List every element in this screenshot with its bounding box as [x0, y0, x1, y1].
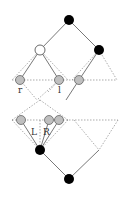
bottom-node	[64, 174, 74, 184]
label-r: r	[18, 85, 23, 95]
R-side-node-2	[55, 116, 64, 125]
l-node	[55, 76, 64, 85]
upper-dashed	[12, 50, 117, 100]
mid-hatched-node	[75, 76, 84, 85]
R-side-node-1	[45, 116, 54, 125]
tree-diagram: r l L R	[0, 0, 129, 206]
label-R: R	[43, 127, 50, 137]
hollow-node	[35, 45, 45, 55]
label-l: l	[58, 85, 61, 95]
lower-dashed	[12, 100, 118, 150]
L-side-node	[17, 116, 26, 125]
label-L: L	[31, 127, 37, 137]
top-node	[64, 15, 74, 25]
right-filled-node	[94, 45, 104, 55]
r-node	[16, 76, 25, 85]
lower-filled-node	[35, 145, 45, 155]
